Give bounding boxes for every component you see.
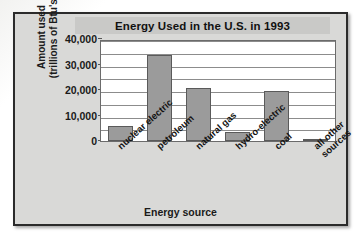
- y-axis-tick-labels: 40,000 30,000 20,000 10,000 0: [51, 33, 97, 149]
- x-axis-tick-labels: nuclear electricpetroleumnatural gashydr…: [100, 144, 336, 206]
- y-tick-mark: [98, 38, 102, 39]
- chart-title-band: Energy Used in the U.S. in 1993: [75, 17, 330, 34]
- y-tick-20000: 20,000: [65, 84, 97, 97]
- chart-figure-frame: Energy Used in the U.S. in 1993 Amount u…: [13, 12, 348, 226]
- y-tick-30000: 30,000: [65, 59, 97, 72]
- y-tick-40000: 40,000: [65, 33, 97, 46]
- y-axis-title-line-1: Amount used: [36, 5, 48, 69]
- page-title: Energy Used in the U.S. in 1993: [115, 20, 290, 32]
- y-tick-0: 0: [91, 135, 97, 148]
- x-axis-title: Energy source: [15, 206, 346, 218]
- y-tick-10000: 10,000: [65, 110, 97, 123]
